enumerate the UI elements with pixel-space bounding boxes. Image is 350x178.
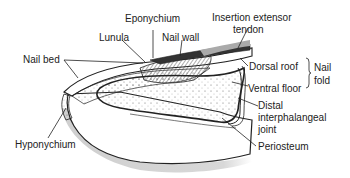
label-dorsal-roof: Dorsal roof xyxy=(249,61,298,72)
leader-nail-bed-1 xyxy=(64,60,143,63)
label-eponychium: Eponychium xyxy=(125,13,180,24)
leader-nail-bed-2 xyxy=(64,60,78,78)
label-distal-line3: joint xyxy=(258,124,276,135)
label-insertion-extensor-tendon-line1: Insertion extensor xyxy=(212,12,292,23)
leader-distal xyxy=(238,98,258,106)
leader-dorsal-roof xyxy=(240,58,248,66)
label-distal-line2: interphalangeal xyxy=(258,112,326,123)
label-nail-fold-line1: Nail xyxy=(314,62,331,73)
nail-fold-brace xyxy=(306,58,311,88)
label-nail-bed: Nail bed xyxy=(23,54,60,65)
label-nail-fold-line2: fold xyxy=(314,75,330,86)
nail-anatomy-diagram: Eponychium Insertion extensor tendon Lun… xyxy=(0,0,350,178)
label-insertion-extensor-tendon-line2: tendon xyxy=(233,24,264,35)
leader-hyponychium xyxy=(48,108,66,138)
label-hyponychium: Hyponychium xyxy=(15,139,76,150)
leader-lunula xyxy=(122,40,145,62)
label-nail-wall: Nail wall xyxy=(162,32,199,43)
label-lunula: Lunula xyxy=(99,32,129,43)
label-distal-line1: Distal xyxy=(258,100,283,111)
label-ventral-floor: Ventral floor xyxy=(248,83,301,94)
label-periosteum: Periosteum xyxy=(258,141,309,152)
